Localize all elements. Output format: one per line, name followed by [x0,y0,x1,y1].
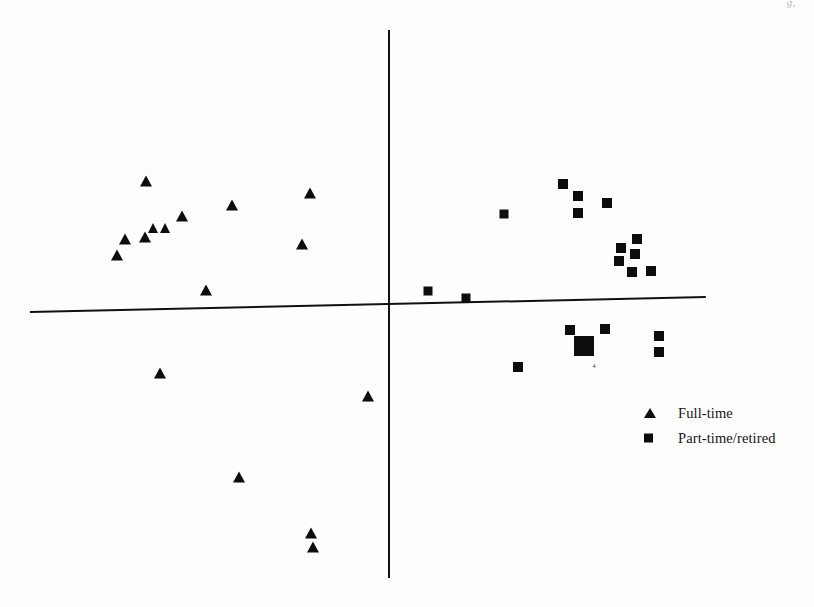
data-point-triangle [305,528,317,539]
data-point-square [616,243,626,253]
data-point-triangle [304,188,316,199]
data-point-triangle [226,200,238,211]
data-point-square [602,198,612,208]
scatter-plot-figure: g, 4 Full-time Part-time/retired [0,0,814,607]
square-marker-icon [644,433,653,442]
triangle-marker-icon [644,408,656,418]
legend-label-full-time: Full-time [678,404,733,421]
data-point-square [646,266,656,276]
overlap-count-annotation: 4 [593,363,596,369]
data-point-square [600,324,610,334]
data-point-triangle [362,391,374,402]
data-point-square [654,347,664,357]
data-point-triangle [139,232,151,243]
data-point-triangle [119,234,131,245]
data-point-square [627,267,637,277]
data-point-triangle [154,368,166,379]
data-point-triangle [200,285,212,296]
scan-corner-artifact: g, [787,0,796,8]
data-point-triangle [111,250,123,261]
data-point-triangle [148,223,158,233]
data-point-square [558,179,568,189]
data-point-square [574,336,594,356]
data-point-triangle [296,239,308,250]
data-point-square [614,256,624,266]
data-point-square [513,362,523,372]
data-point-square [462,294,471,303]
data-point-triangle [307,542,319,553]
data-point-square [632,234,642,244]
data-point-square [573,191,583,201]
data-point-square [424,287,433,296]
data-point-square [630,249,640,259]
data-point-square [500,210,509,219]
data-point-triangle [233,472,245,483]
data-point-triangle [176,211,188,222]
data-point-triangle [160,223,170,233]
data-point-triangle [140,176,152,187]
y-axis-line [388,30,390,578]
data-point-square [573,208,583,218]
data-point-square [565,325,575,335]
data-point-square [654,331,664,341]
legend-label-part-time-retired: Part-time/retired [678,429,776,446]
x-axis-line [30,296,706,313]
